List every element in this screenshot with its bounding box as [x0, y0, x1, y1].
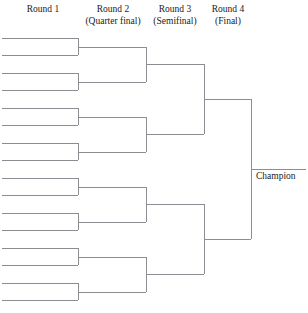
- match-slot-r1-12: [2, 230, 78, 231]
- match-slot-r1-1: [2, 38, 78, 39]
- match-slot-r1-7: [2, 143, 78, 144]
- champion-slot-line: [251, 169, 306, 170]
- match-slot-r1-4: [2, 90, 78, 91]
- match-slot-r2-8: [78, 292, 146, 293]
- match-slot-r2-6: [78, 222, 146, 223]
- match-slot-r3-3: [146, 204, 204, 205]
- match-slot-r2-1: [78, 47, 146, 48]
- match-slot-r1-8: [2, 160, 78, 161]
- match-slot-r3-1: [146, 64, 204, 65]
- match-slot-r1-14: [2, 265, 78, 266]
- tournament-bracket-diagram: Round 1Round 2(Quarter final)Round 3(Sem…: [0, 0, 308, 313]
- match-slot-r4-2: [204, 239, 251, 240]
- match-slot-r1-16: [2, 300, 78, 301]
- champion-label: Champion: [256, 171, 296, 182]
- match-slot-r1-9: [2, 178, 78, 179]
- match-slot-r1-11: [2, 213, 78, 214]
- match-slot-r2-5: [78, 187, 146, 188]
- match-slot-r3-2: [146, 134, 204, 135]
- match-slot-r4-1: [204, 99, 251, 100]
- match-slot-r2-4: [78, 152, 146, 153]
- match-slot-r1-5: [2, 108, 78, 109]
- bracket-lines: [0, 0, 308, 313]
- match-slot-r1-6: [2, 125, 78, 126]
- match-slot-r2-3: [78, 117, 146, 118]
- match-slot-r1-15: [2, 283, 78, 284]
- match-slot-r3-4: [146, 274, 204, 275]
- match-slot-r2-2: [78, 82, 146, 83]
- match-slot-r1-13: [2, 248, 78, 249]
- match-slot-r2-7: [78, 257, 146, 258]
- match-slot-r1-3: [2, 73, 78, 74]
- match-slot-r1-10: [2, 195, 78, 196]
- match-slot-r1-2: [2, 55, 78, 56]
